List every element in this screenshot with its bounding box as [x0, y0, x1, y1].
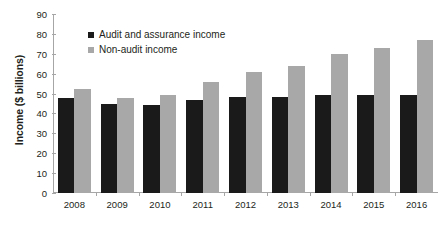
y-axis-tick-label: 50 [36, 88, 47, 99]
bar-nonaudit-2012 [246, 72, 263, 193]
bar-nonaudit-2011 [203, 82, 220, 193]
y-axis-title-label: Income ($ billions) [13, 55, 25, 145]
x-axis-label-2009: 2009 [107, 199, 128, 210]
legend-swatch-audit-icon [88, 32, 94, 38]
x-axis-tick [139, 193, 140, 196]
bar-audit-2012 [229, 97, 246, 193]
legend-item-nonaudit: Non-audit income [88, 44, 225, 55]
x-axis-tick [224, 193, 225, 196]
bar-audit-2008 [58, 98, 75, 193]
y-axis-tick-label: 70 [36, 48, 47, 59]
x-axis-label-2012: 2012 [235, 199, 256, 210]
x-axis-tick [181, 193, 182, 196]
x-axis-tick [352, 193, 353, 196]
x-axis-label-2013: 2013 [278, 199, 299, 210]
y-axis-tick-label: 0 [42, 188, 47, 199]
bar-audit-2014 [315, 95, 332, 193]
bar-nonaudit-2013 [288, 66, 305, 193]
x-axis-label-2015: 2015 [363, 199, 384, 210]
chart-legend: Audit and assurance income Non-audit inc… [88, 29, 225, 59]
legend-swatch-nonaudit-icon [88, 47, 94, 53]
bar-nonaudit-2015 [374, 48, 391, 193]
bar-nonaudit-2008 [74, 89, 91, 193]
x-axis-label-2010: 2010 [149, 199, 170, 210]
bar-audit-2011 [186, 100, 203, 193]
y-axis-tick-label: 40 [36, 108, 47, 119]
x-axis-label-2011: 2011 [193, 199, 213, 210]
bar-audit-2015 [357, 95, 374, 193]
bar-audit-2013 [272, 97, 289, 193]
x-axis-tick [310, 193, 311, 196]
y-axis-tick-label: 30 [36, 128, 47, 139]
x-axis-tick [267, 193, 268, 196]
y-axis-title: Income ($ billions) [8, 0, 30, 200]
bar-audit-2009 [101, 104, 118, 194]
y-axis-tick [52, 193, 56, 194]
x-axis-tick [395, 193, 396, 196]
x-axis-label-2008: 2008 [64, 199, 85, 210]
y-axis-tick-label: 80 [36, 28, 47, 39]
bar-audit-2016 [400, 95, 417, 193]
bar-nonaudit-2014 [331, 54, 348, 193]
bar-nonaudit-2016 [417, 40, 434, 193]
bar-audit-2010 [143, 105, 160, 194]
y-axis-tick-label: 90 [36, 9, 47, 20]
bar-chart: Income ($ billions) 0102030405060708090 … [0, 0, 447, 228]
y-axis-tick-label: 60 [36, 68, 47, 79]
y-axis-tick-label: 20 [36, 148, 47, 159]
y-axis-tick-label: 10 [36, 168, 47, 179]
x-axis-tick [96, 193, 97, 196]
bar-nonaudit-2009 [117, 98, 134, 193]
legend-label-audit: Audit and assurance income [99, 29, 225, 40]
x-axis-label-2016: 2016 [406, 199, 427, 210]
x-axis-label-2014: 2014 [320, 199, 341, 210]
legend-label-nonaudit: Non-audit income [99, 44, 177, 55]
legend-item-audit: Audit and assurance income [88, 29, 225, 40]
bar-nonaudit-2010 [160, 95, 177, 193]
